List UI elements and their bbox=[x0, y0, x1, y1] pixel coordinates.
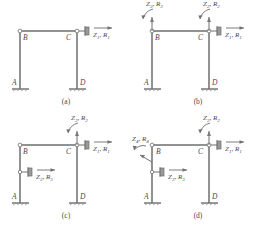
panel-a: B C A D Z1, R1 (a) bbox=[0, 0, 132, 114]
node-b bbox=[18, 29, 22, 33]
figure-four-load-cases: B C A D Z1, R1 (a) bbox=[0, 0, 264, 228]
panel-caption-c: (c) bbox=[46, 212, 86, 220]
label-d: D bbox=[80, 193, 85, 201]
actuator-horizontal-c bbox=[211, 26, 221, 36]
label-c: C bbox=[198, 34, 203, 42]
load-label-z2-r2: Z2, R2 bbox=[71, 115, 88, 123]
label-d: D bbox=[80, 79, 85, 87]
label-a: A bbox=[144, 79, 149, 87]
actuator-horizontal-c bbox=[79, 26, 89, 36]
load-label-z2-r2: Z2, R2 bbox=[203, 1, 220, 9]
label-b: B bbox=[23, 148, 28, 156]
label-d: D bbox=[212, 79, 217, 87]
force-arrow-z3 bbox=[37, 168, 55, 172]
label-c: C bbox=[66, 148, 71, 156]
load-label-z1-r1: Z1, R1 bbox=[93, 146, 110, 154]
label-a: A bbox=[12, 79, 17, 87]
load-label-z3-r3: Z3, R3 bbox=[168, 174, 185, 182]
node-b bbox=[150, 143, 154, 147]
panel-b: B C A D Z3, R3 Z2, R2 Z1, R1 (b) bbox=[132, 0, 264, 114]
label-b: B bbox=[156, 148, 161, 156]
label-c: C bbox=[198, 148, 203, 156]
force-arrow-z1 bbox=[94, 140, 112, 144]
label-c: C bbox=[66, 34, 71, 42]
panel-caption-a: (a) bbox=[46, 98, 86, 106]
actuator-horizontal-c bbox=[79, 140, 89, 150]
actuator-moment-c bbox=[198, 9, 211, 31]
load-label-z4-r4: Z4, R4 bbox=[132, 136, 149, 144]
node-c bbox=[75, 29, 79, 33]
panel-c: B C A D Z2, R2 Z1, R1 Z3, R3 (c) bbox=[0, 114, 132, 228]
load-label-z3-r3: Z3, R3 bbox=[36, 174, 53, 182]
panel-caption-d: (d) bbox=[178, 212, 218, 220]
panel-caption-b: (b) bbox=[178, 98, 218, 106]
load-label-z1-r1: Z1, R1 bbox=[225, 32, 242, 40]
actuator-moment-c bbox=[198, 123, 211, 145]
force-arrow-z3 bbox=[169, 168, 187, 172]
actuator-moment-c bbox=[66, 123, 79, 145]
panel-d: B C A D Z2, R2 Z1, R1 Z3, R3 Z4, R4 (d) bbox=[132, 114, 264, 228]
force-arrow-z1 bbox=[226, 26, 244, 30]
force-arrow-z1 bbox=[226, 140, 244, 144]
actuator-moment-b bbox=[141, 9, 154, 31]
label-d: D bbox=[212, 193, 217, 201]
label-a: A bbox=[144, 193, 149, 201]
force-arrow-z1 bbox=[94, 26, 112, 30]
load-label-z3-r3: Z3, R3 bbox=[146, 1, 163, 9]
label-a: A bbox=[12, 193, 17, 201]
load-label-z2-r2: Z2, R2 bbox=[203, 115, 220, 123]
load-label-z1-r1: Z1, R1 bbox=[225, 146, 242, 154]
actuator-moment-left-column bbox=[133, 146, 152, 163]
label-b: B bbox=[155, 34, 160, 42]
label-b: B bbox=[23, 34, 28, 42]
actuator-horizontal-c bbox=[211, 140, 221, 150]
load-label-z1-r1: Z1, R1 bbox=[93, 32, 110, 40]
node-b bbox=[18, 143, 22, 147]
